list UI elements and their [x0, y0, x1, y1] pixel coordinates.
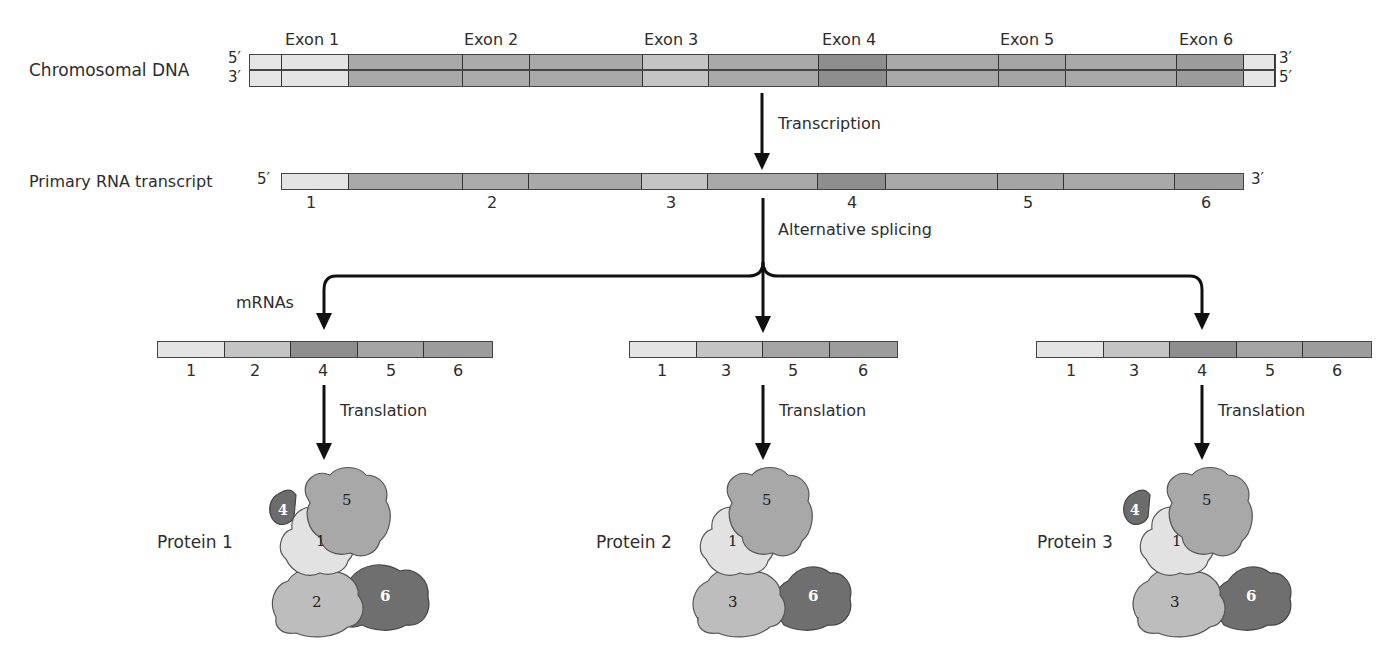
mrna-2-num-3: 5: [788, 361, 798, 380]
rna-exon-num-6: 6: [1201, 193, 1211, 212]
mrna-1: [157, 341, 493, 358]
svg-text:1: 1: [1172, 532, 1182, 550]
rna-exon-4: [818, 174, 886, 189]
mrna-3-exon-4: [1170, 342, 1237, 357]
mrna-3: [1036, 341, 1372, 358]
svg-text:6: 6: [1246, 587, 1256, 605]
protein-1-structure-icon: 4 5 1 2 6: [270, 468, 429, 637]
rna-label: Primary RNA transcript: [29, 172, 212, 191]
svg-text:4: 4: [1130, 502, 1140, 518]
transcription-label: Transcription: [778, 114, 881, 133]
mrna-3-num-5: 6: [1332, 361, 1342, 380]
rna-exon-num-2: 2: [487, 193, 497, 212]
translation-label-1: Translation: [340, 401, 427, 420]
mrna-3-exon-3: [1104, 342, 1171, 357]
primary-rna-transcript: [281, 173, 1244, 190]
rna-right-end: 3′: [1251, 170, 1264, 188]
flow-arrows: 4 5 1 2 6 5 1 3 6 4 5 1 3 6: [0, 0, 1396, 651]
rna-intron-1: [349, 174, 463, 189]
mrna-3-num-1: 1: [1066, 361, 1076, 380]
protein-2-structure-icon: 5 1 3 6: [693, 468, 851, 637]
mrna-2-exon-1: [630, 342, 697, 357]
mrna-1-exon-4: [291, 342, 358, 357]
rna-left-end: 5′: [257, 170, 270, 188]
mrna-1-num-3: 4: [318, 361, 328, 380]
mrna-1-exon-5: [358, 342, 425, 357]
rna-exon-1: [282, 174, 349, 189]
translation-arrow-icon-3: [1194, 385, 1210, 460]
mrna-3-exon-1: [1037, 342, 1104, 357]
rna-exon-num-5: 5: [1023, 193, 1033, 212]
mrna-3-exon-6: [1303, 342, 1371, 357]
mrna-1-num-5: 6: [453, 361, 463, 380]
svg-text:3: 3: [728, 593, 738, 611]
translation-arrow-icon-1: [316, 385, 332, 460]
rna-exon-3: [642, 174, 708, 189]
svg-text:5: 5: [762, 491, 772, 509]
svg-text:2: 2: [312, 593, 322, 611]
mrna-1-exon-1: [158, 342, 225, 357]
rna-intron-4: [886, 174, 998, 189]
svg-text:3: 3: [1170, 593, 1180, 611]
translation-label-3: Translation: [1218, 401, 1305, 420]
protein-3-structure-icon: 4 5 1 3 6: [1124, 468, 1291, 637]
splicing-branch-arrows-icon: [316, 198, 1210, 333]
mrna-3-exon-5: [1237, 342, 1304, 357]
rna-intron-2: [529, 174, 642, 189]
mrna-3-num-2: 3: [1129, 361, 1139, 380]
mrna-2-num-1: 1: [657, 361, 667, 380]
svg-text:5: 5: [342, 491, 352, 509]
svg-text:1: 1: [728, 532, 738, 550]
mrna-2-num-2: 3: [721, 361, 731, 380]
svg-text:6: 6: [808, 587, 818, 605]
mrna-2-exon-5: [763, 342, 830, 357]
protein-1-label: Protein 1: [157, 532, 233, 552]
transcription-arrow-icon: [754, 93, 770, 170]
splicing-label: Alternative splicing: [778, 220, 932, 239]
rna-exon-num-4: 4: [847, 193, 857, 212]
svg-text:5: 5: [1202, 491, 1212, 509]
mrna-1-num-4: 5: [386, 361, 396, 380]
mrna-1-exon-2: [225, 342, 292, 357]
protein-3-label: Protein 3: [1037, 532, 1113, 552]
rna-exon-5: [998, 174, 1065, 189]
rna-exon-num-3: 3: [666, 193, 676, 212]
mrna-3-num-3: 4: [1197, 361, 1207, 380]
mrna-3-num-4: 5: [1265, 361, 1275, 380]
mrna-1-exon-6: [424, 342, 492, 357]
protein-2-label: Protein 2: [596, 532, 672, 552]
mrna-2-exon-6: [830, 342, 897, 357]
rna-intron-3: [708, 174, 818, 189]
mrnas-label: mRNAs: [236, 293, 294, 312]
svg-text:1: 1: [316, 532, 326, 550]
translation-arrow-icon-2: [755, 385, 771, 460]
mrna-2-num-4: 6: [858, 361, 868, 380]
protein-1-domain-4: 4: [278, 502, 288, 518]
mrna-1-num-1: 1: [186, 361, 196, 380]
mrna-1-num-2: 2: [250, 361, 260, 380]
rna-exon-num-1: 1: [306, 193, 316, 212]
rna-exon-6: [1175, 174, 1243, 189]
svg-text:6: 6: [380, 587, 390, 605]
mrna-2: [629, 341, 898, 358]
rna-intron-5: [1064, 174, 1175, 189]
translation-label-2: Translation: [779, 401, 866, 420]
rna-exon-2: [463, 174, 530, 189]
mrna-2-exon-3: [697, 342, 764, 357]
